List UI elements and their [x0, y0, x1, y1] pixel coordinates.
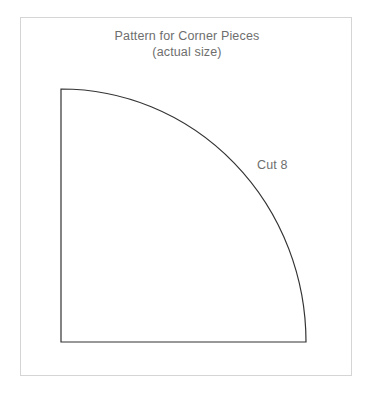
page-canvas: Pattern for Corner Pieces (actual size) … [0, 0, 372, 398]
quarter-circle-outline [61, 89, 306, 342]
pattern-sheet-frame: Pattern for Corner Pieces (actual size) … [20, 17, 352, 376]
cut-quantity-label: Cut 8 [257, 158, 288, 172]
corner-piece-pattern [21, 18, 353, 377]
